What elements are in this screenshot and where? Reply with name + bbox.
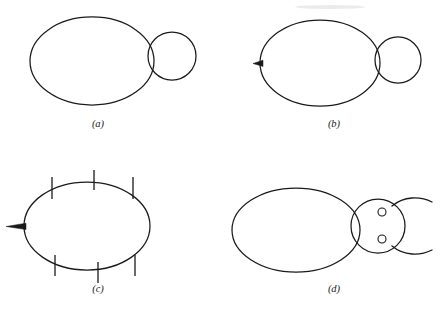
panel-a-head-circle [148, 32, 196, 80]
panel-b-tail-spike [253, 60, 263, 66]
panel-b-body-ellipse [260, 20, 380, 106]
panel-d-antenna-upper [392, 198, 432, 206]
panel-d-body-ellipse [232, 188, 360, 272]
panel-d: (d) [232, 188, 432, 295]
panel-d-eye-lower [378, 235, 386, 243]
panel-c-label: (c) [92, 283, 104, 295]
figure-canvas: (a) (b) (c) [0, 0, 440, 315]
panel-d-eye-upper [378, 208, 386, 216]
panel-d-label: (d) [328, 283, 341, 295]
panel-c-body-ellipse [24, 182, 150, 270]
panel-a-body-ellipse [30, 17, 154, 105]
figure-container: (a) (b) (c) [0, 0, 440, 315]
panel-b-head-circle [375, 37, 421, 83]
panel-d-head-circle [351, 199, 405, 253]
page-artifact-smudge [295, 5, 365, 9]
panel-b: (b) [253, 20, 421, 130]
panel-a: (a) [30, 17, 196, 130]
panel-d-antenna-lower [392, 246, 432, 254]
panel-a-label: (a) [92, 118, 105, 130]
panel-c: (c) [6, 170, 150, 295]
panel-c-tail-spike [6, 223, 26, 229]
panel-b-label: (b) [328, 118, 341, 130]
